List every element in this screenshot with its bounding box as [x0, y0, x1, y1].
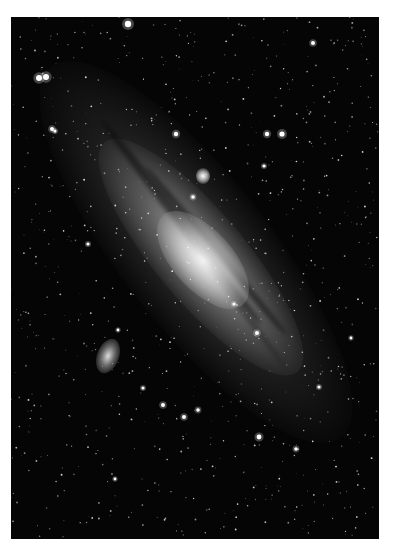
- bright-star: [262, 164, 265, 167]
- bright-star: [191, 195, 195, 199]
- bright-star: [114, 478, 117, 481]
- bright-star: [196, 408, 200, 412]
- andromeda-galaxy-photo: [11, 17, 379, 539]
- bright-star: [161, 403, 165, 407]
- bright-star: [294, 447, 298, 451]
- bright-star: [43, 74, 49, 80]
- bright-star: [232, 302, 235, 305]
- bright-star: [311, 41, 315, 45]
- bright-star: [117, 329, 120, 332]
- bright-star: [53, 129, 56, 132]
- bright-star: [317, 385, 320, 388]
- bright-star: [182, 415, 186, 419]
- bright-star: [257, 435, 262, 440]
- bright-star: [174, 132, 178, 136]
- bright-star: [350, 337, 353, 340]
- bright-star: [265, 132, 269, 136]
- bright-star: [86, 242, 89, 245]
- bright-star: [255, 331, 259, 335]
- bright-star: [279, 131, 284, 136]
- star-field: [11, 17, 379, 539]
- bright-star: [125, 21, 131, 27]
- bright-star: [141, 386, 144, 389]
